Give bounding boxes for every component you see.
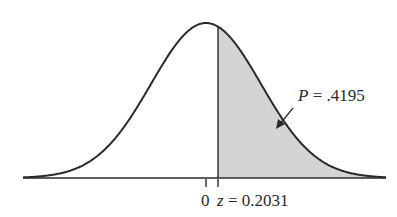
p-symbol: P (297, 86, 308, 105)
mean-tick-label: 0 (201, 191, 210, 210)
normal-distribution-figure: 0 z = 0.2031 P = .4195 (0, 0, 397, 217)
z-value: = 0.2031 (224, 191, 289, 210)
p-label: P = .4195 (297, 86, 365, 105)
p-arrow (280, 108, 293, 124)
p-value: = .4195 (308, 86, 364, 105)
z-label: z = 0.2031 (216, 191, 288, 210)
